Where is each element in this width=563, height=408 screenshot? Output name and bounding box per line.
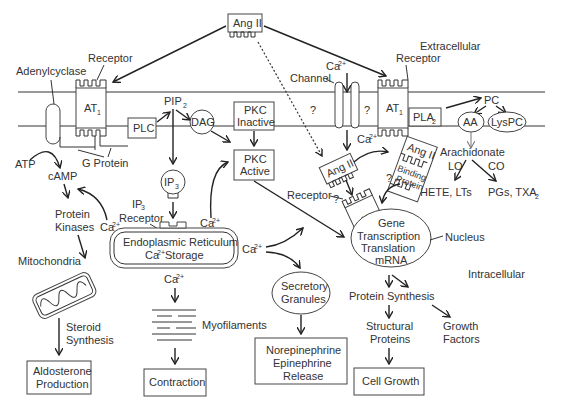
svg-text:Structural: Structural	[366, 320, 413, 332]
svg-text:?: ?	[386, 172, 392, 184]
svg-text:Growth: Growth	[443, 320, 478, 332]
endoplasmic-reticulum: Endoplasmic Reticulum Ca 2+ Storage	[110, 222, 238, 268]
channel-right	[351, 82, 359, 128]
svg-text:2: 2	[535, 193, 539, 200]
myofilaments-label: Myofilaments	[202, 319, 267, 331]
at1-receptor-left: AT 1	[76, 80, 106, 136]
mitochondria-label: Mitochondria	[18, 255, 82, 267]
svg-text:Cell Growth: Cell Growth	[362, 375, 419, 387]
pip2-label: PIP	[164, 95, 182, 107]
svg-text:Production: Production	[36, 378, 89, 390]
hete-lts-label: HETE, LTs	[420, 186, 472, 198]
svg-text:2+: 2+	[369, 133, 377, 140]
adenylcyclase-protein	[46, 104, 60, 144]
receptor-right-label: Receptor	[396, 52, 441, 64]
camp-label: cAMP	[48, 170, 77, 182]
svg-text:Transcription: Transcription	[357, 230, 420, 242]
svg-text:Kinases: Kinases	[55, 221, 95, 233]
svg-text:Endoplasmic Reticulum: Endoplasmic Reticulum	[123, 236, 238, 248]
svg-text:Inactive: Inactive	[237, 116, 275, 128]
plc-label: PLC	[133, 122, 154, 134]
receptor-internal-label: Receptor	[287, 189, 332, 201]
dag-label: DAG	[191, 116, 215, 128]
extracellular-label: Extracellular	[420, 40, 481, 52]
svg-text:?: ?	[333, 193, 339, 205]
svg-text:?: ?	[310, 104, 316, 116]
nucleus-label: Nucleus	[445, 231, 485, 243]
svg-text:2+: 2+	[157, 249, 165, 256]
internal-ang-ii: Ang II	[319, 153, 360, 188]
svg-text:CO: CO	[488, 160, 505, 172]
svg-text:Contraction: Contraction	[149, 376, 205, 388]
adenylcyclase-label: Adenylcyclase	[16, 65, 86, 77]
svg-text:AT: AT	[84, 102, 98, 114]
mitochondrion-icon	[31, 271, 98, 321]
svg-text:Granules: Granules	[281, 293, 326, 305]
svg-text:Protein: Protein	[55, 208, 90, 220]
svg-text:Release: Release	[283, 370, 323, 382]
pgs-txa2-label: PGs, TXA	[488, 186, 537, 198]
svg-text:2+: 2+	[338, 60, 346, 67]
svg-text:?: ?	[364, 104, 370, 116]
svg-text:3: 3	[141, 204, 145, 211]
svg-text:Secretory: Secretory	[281, 280, 329, 292]
arachidonate-label: Arachidonate	[440, 146, 505, 158]
svg-text:2+: 2+	[212, 217, 220, 224]
svg-text:Translation: Translation	[361, 242, 415, 254]
svg-text:3: 3	[175, 183, 179, 190]
intracellular-label: Intracellular	[468, 268, 525, 280]
svg-text:AA: AA	[463, 116, 478, 128]
myofilaments-icon	[152, 310, 196, 340]
svg-text:Active: Active	[240, 165, 270, 177]
receptor-left-label: Receptor	[88, 52, 133, 64]
svg-text:Epinephrine: Epinephrine	[273, 357, 332, 369]
g-protein-label: G Protein	[82, 157, 128, 169]
svg-text:PKC: PKC	[244, 104, 267, 116]
svg-text:Storage: Storage	[165, 249, 204, 261]
svg-text:2: 2	[183, 102, 187, 109]
svg-text:Factors: Factors	[443, 333, 480, 345]
svg-text:Aldosterone: Aldosterone	[33, 365, 92, 377]
svg-text:LysPC: LysPC	[491, 116, 523, 128]
svg-text:Receptor: Receptor	[119, 212, 164, 224]
ang-ii-signaling-diagram: Extracellular Intracellular Ang II Adeny…	[0, 0, 563, 408]
svg-text:2: 2	[432, 118, 436, 125]
channel-left	[335, 82, 343, 128]
at1-receptor-right: AT 1	[378, 80, 408, 136]
svg-text:Steroid: Steroid	[66, 321, 101, 333]
svg-text:PKC: PKC	[244, 153, 267, 165]
atp-label: ATP	[15, 158, 36, 170]
ang-ii-ligand: Ang II	[228, 14, 262, 37]
svg-text:Proteins: Proteins	[370, 333, 411, 345]
protein-synthesis-label: Protein Synthesis	[349, 290, 435, 302]
svg-text:Gene: Gene	[378, 217, 405, 229]
svg-text:Norepinephrine: Norepinephrine	[266, 344, 341, 356]
channel-label: Channel	[290, 72, 331, 84]
pc-label: PC	[484, 94, 499, 106]
svg-text:Synthesis: Synthesis	[66, 334, 114, 346]
svg-text:1: 1	[97, 109, 101, 116]
svg-text:2+: 2+	[176, 273, 184, 280]
svg-text:AT: AT	[386, 102, 400, 114]
svg-text:mRNA: mRNA	[375, 254, 408, 266]
svg-text:1: 1	[399, 109, 403, 116]
svg-text:IP: IP	[164, 176, 174, 188]
svg-text:2+: 2+	[254, 243, 262, 250]
ang-ii-label: Ang II	[233, 17, 262, 29]
